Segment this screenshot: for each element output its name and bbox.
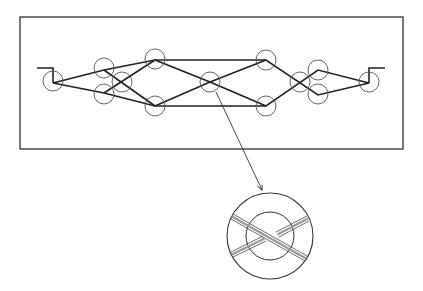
waveguide-paths [37,60,385,106]
detail-waveguide-a [231,214,307,261]
detail-waveguide-b-lower [231,236,266,257]
crossing-detail-view [227,193,313,279]
lower-path [53,70,369,106]
diagram-canvas [0,0,423,291]
node-circle [145,49,165,69]
detail-outer-circle [227,193,313,279]
detail-waveguide-b-upper [276,216,309,237]
detail-inner-circle [246,212,294,260]
